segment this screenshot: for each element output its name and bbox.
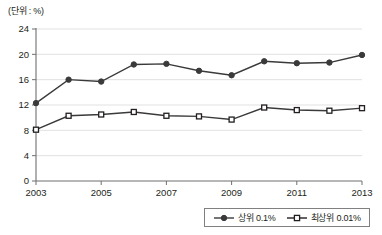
data-point xyxy=(327,60,332,65)
x-tick-label: 2003 xyxy=(25,187,46,198)
x-tick-label: 2007 xyxy=(156,187,177,198)
data-point xyxy=(294,61,299,66)
y-tick-label: 4 xyxy=(24,150,29,161)
data-point xyxy=(99,112,104,117)
y-tick-label: 12 xyxy=(18,99,29,110)
data-point xyxy=(131,62,136,67)
x-axis: 200320052007200920112013 xyxy=(25,181,372,198)
series-line-1 xyxy=(36,55,362,103)
legend-item: 최상위 0.01% xyxy=(286,211,361,224)
data-point xyxy=(294,108,299,113)
series-group xyxy=(33,52,364,132)
y-tick-label: 0 xyxy=(24,175,29,186)
data-point xyxy=(229,117,234,122)
chart-plot: 04812162024 200320052007200920112013 xyxy=(0,0,382,235)
data-point xyxy=(360,106,365,111)
y-tick-label: 20 xyxy=(18,49,29,60)
data-point xyxy=(131,109,136,114)
gridlines xyxy=(36,29,362,156)
data-point xyxy=(262,105,267,110)
legend-label: 상위 0.1% xyxy=(238,211,276,224)
chart-legend: 상위 0.1%최상위 0.01% xyxy=(204,208,370,227)
filled-circle-icon xyxy=(213,213,235,223)
data-point xyxy=(196,68,201,73)
data-point xyxy=(99,79,104,84)
x-tick-label: 2005 xyxy=(91,187,112,198)
data-point xyxy=(359,52,364,57)
chart-container: (단위 : %) 04812162024 2003200520072009201… xyxy=(0,0,382,235)
legend-item: 상위 0.1% xyxy=(213,211,276,224)
data-point xyxy=(327,108,332,113)
data-point xyxy=(197,114,202,119)
y-tick-label: 24 xyxy=(18,23,29,34)
data-point xyxy=(164,113,169,118)
data-point xyxy=(66,113,71,118)
data-point xyxy=(164,61,169,66)
data-point xyxy=(34,127,39,132)
data-point xyxy=(33,100,38,105)
y-tick-label: 16 xyxy=(18,74,29,85)
data-point xyxy=(229,73,234,78)
open-square-icon xyxy=(286,213,308,223)
data-point xyxy=(262,59,267,64)
x-tick-label: 2013 xyxy=(351,187,372,198)
data-point xyxy=(66,77,71,82)
legend-label: 최상위 0.01% xyxy=(311,211,361,224)
y-tick-label: 8 xyxy=(24,125,29,136)
x-tick-label: 2011 xyxy=(287,187,307,198)
x-tick-label: 2009 xyxy=(221,187,242,198)
